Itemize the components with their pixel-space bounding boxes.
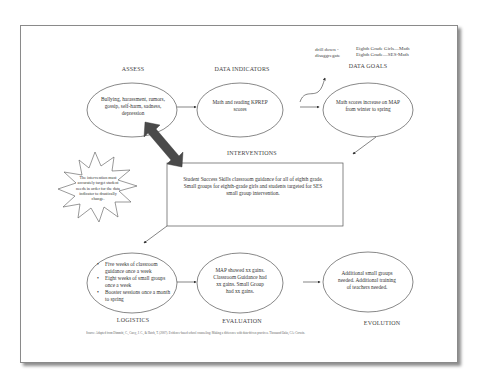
callout-text: The intervention must accurately target … xyxy=(75,175,121,201)
evaluation-label: EVALUATION xyxy=(222,318,262,324)
arrow-goals-to-interventions xyxy=(353,137,376,154)
evaluation-text: MAP showed xx gains. Classroom Guidance … xyxy=(212,267,268,295)
arrow-drill-down-curve xyxy=(300,78,325,102)
targets-note: Eighth Grade Girls—Math Eighth Grade—SES… xyxy=(356,46,410,58)
assess-label: ASSESS xyxy=(122,66,145,72)
logistics-bullet: Five weeks of classroom guidance once a … xyxy=(95,261,175,275)
drill-down-note: drill down - disaggregate xyxy=(315,47,340,59)
data-goals-label: DATA GOALS xyxy=(349,63,388,69)
drill-down-line2: disaggregate xyxy=(315,53,340,59)
logistics-bullets: Five weeks of classroom guidance once a … xyxy=(95,261,175,303)
interventions-label: INTERVENTIONS xyxy=(227,150,277,156)
logistics-label: LOGISTICS xyxy=(117,317,149,323)
interventions-text: Student Success Skills classroom guidanc… xyxy=(178,176,328,197)
evolution-text: Additional small groups needed. Addition… xyxy=(337,270,397,291)
data-goals-text: Math scores increase on MAP from winter … xyxy=(335,99,401,113)
target-line2: Eighth Grade—SES-Math xyxy=(356,52,410,58)
source-citation: Source: Adapted from Dimmitt, C., Carey,… xyxy=(86,331,386,335)
arrow-interventions-to-logistics xyxy=(144,226,167,243)
logistics-bullet: Eight weeks of small groups once a week xyxy=(95,275,175,289)
assess-text: Bullying, harassment, rumors, gossip, se… xyxy=(100,96,166,117)
evolution-label: EVOLUTION xyxy=(364,320,400,326)
data-indicators-text: Math and reading KPREP scores xyxy=(212,99,268,113)
logistics-bullet: Booster sessions once a month to spring xyxy=(95,289,175,303)
data-indicators-label: DATA INDICATORS xyxy=(214,66,269,72)
